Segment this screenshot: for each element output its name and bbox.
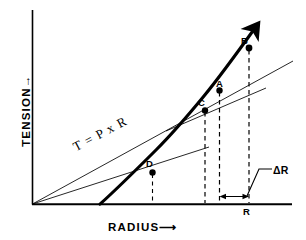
marker-point-d [149, 169, 155, 175]
y-axis-arrow-icon: → [20, 75, 32, 88]
point-label-c: C [198, 98, 205, 108]
graph-canvas [0, 0, 306, 240]
tension-radius-graph: TENSION→ RADIUS⟶ T = P x R A B C D R ΔR [0, 0, 306, 240]
delta-r-leader-line [247, 169, 272, 196]
x-axis-arrow-icon: ⟶ [159, 221, 177, 233]
x-axis-title-text: RADIUS [108, 221, 159, 233]
point-label-d: D [146, 159, 153, 169]
point-label-b: B [241, 36, 248, 46]
y-axis-title: TENSION→ [21, 56, 33, 166]
y-axis-title-text: TENSION [20, 87, 32, 147]
law-of-laplace-line [33, 61, 294, 204]
delta-radius-label: ΔR [273, 165, 289, 176]
x-axis-title: RADIUS⟶ [108, 222, 178, 234]
delta-r-arrow-left [220, 194, 227, 199]
x-tick-label-r: R [243, 207, 250, 217]
point-label-a: A [216, 79, 223, 89]
marker-point-c [202, 107, 208, 113]
